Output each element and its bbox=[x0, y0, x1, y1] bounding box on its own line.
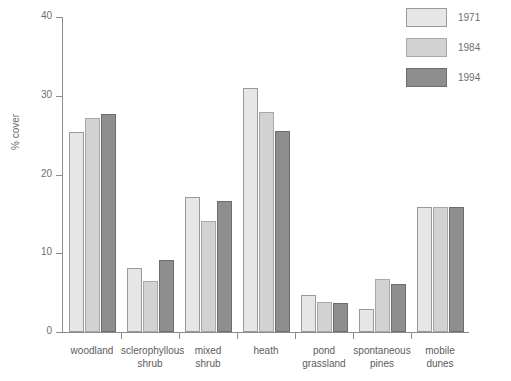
bar-1971 bbox=[127, 268, 142, 332]
bar-1971 bbox=[301, 295, 316, 332]
bar-chart: % cover 010203040 woodlandsclerophyllous… bbox=[0, 0, 511, 381]
bar-1994 bbox=[159, 260, 174, 332]
legend-item-1984: 1984 bbox=[406, 38, 506, 64]
bar-1971 bbox=[69, 132, 84, 332]
bar-1994 bbox=[101, 114, 116, 332]
category-separator bbox=[237, 333, 238, 339]
clipped-caption-strip bbox=[0, 0, 511, 8]
bar-1984 bbox=[375, 279, 390, 332]
bar-1971 bbox=[185, 197, 200, 332]
legend-swatch-1984 bbox=[406, 38, 447, 57]
bar-1994 bbox=[275, 131, 290, 332]
x-axis-line bbox=[62, 332, 469, 333]
bar-group bbox=[185, 17, 232, 332]
y-tick-label: 0 bbox=[46, 325, 52, 336]
legend-item-1994: 1994 bbox=[406, 68, 506, 94]
bar-1984 bbox=[433, 207, 448, 332]
y-tick-label: 10 bbox=[41, 246, 52, 257]
legend-swatch-1994 bbox=[406, 68, 447, 87]
category-separator bbox=[295, 333, 296, 339]
bar-group bbox=[301, 17, 348, 332]
y-tick-10: 10 bbox=[56, 253, 62, 254]
category-separator bbox=[121, 333, 122, 339]
bar-group bbox=[127, 17, 174, 332]
category-label: mixed shrub bbox=[179, 344, 237, 370]
bar-1994 bbox=[333, 303, 348, 332]
bar-1984 bbox=[85, 118, 100, 332]
chart-legend: 197119841994 bbox=[406, 8, 506, 98]
bar-group bbox=[359, 17, 406, 332]
bar-1984 bbox=[317, 302, 332, 332]
category-label: spontaneous pines bbox=[353, 344, 411, 370]
bar-1994 bbox=[391, 284, 406, 332]
legend-item-1971: 1971 bbox=[406, 8, 506, 34]
bar-1971 bbox=[359, 309, 374, 332]
bar-1984 bbox=[143, 281, 158, 332]
legend-swatch-1971 bbox=[406, 8, 447, 27]
bar-group bbox=[243, 17, 290, 332]
y-tick-label: 30 bbox=[41, 89, 52, 100]
bar-1971 bbox=[243, 88, 258, 332]
y-tick-20: 20 bbox=[56, 175, 62, 176]
category-label: heath bbox=[237, 344, 295, 357]
category-label: mobile dunes bbox=[411, 344, 469, 370]
category-label: sclerophyllous shrub bbox=[121, 344, 179, 370]
y-axis-title: % cover bbox=[10, 114, 21, 150]
category-label: pond grassland bbox=[295, 344, 353, 370]
bar-1971 bbox=[417, 207, 432, 332]
category-separator bbox=[179, 333, 180, 339]
bar-1984 bbox=[259, 112, 274, 333]
y-tick-label: 40 bbox=[41, 10, 52, 21]
y-tick-label: 20 bbox=[41, 168, 52, 179]
bar-group bbox=[69, 17, 116, 332]
category-separator bbox=[353, 333, 354, 339]
legend-label: 1971 bbox=[458, 12, 480, 23]
category-label: woodland bbox=[63, 344, 121, 357]
bar-1994 bbox=[449, 207, 464, 332]
bar-1984 bbox=[201, 221, 216, 332]
bar-1994 bbox=[217, 201, 232, 333]
y-tick-30: 30 bbox=[56, 96, 62, 97]
legend-label: 1994 bbox=[458, 72, 480, 83]
category-separator bbox=[411, 333, 412, 339]
y-tick-0: 0 bbox=[56, 332, 62, 333]
y-tick-40: 40 bbox=[56, 17, 62, 18]
legend-label: 1984 bbox=[458, 42, 480, 53]
